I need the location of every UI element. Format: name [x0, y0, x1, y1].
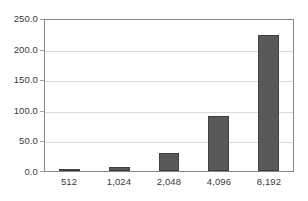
bar-512[interactable] — [59, 169, 80, 171]
plot-area — [44, 19, 294, 172]
y-axis-tick-label: 200.0 — [14, 45, 38, 55]
bar-2048[interactable] — [159, 153, 180, 171]
bar-slot — [243, 20, 293, 171]
y-axis-labels: 250.0 200.0 150.0 100.0 50.0 0.0 — [0, 0, 42, 201]
bar-slot — [144, 20, 194, 171]
x-axis-tick-label: 4,096 — [194, 176, 244, 187]
bar-1024[interactable] — [109, 167, 130, 171]
x-axis-labels: 512 1,024 2,048 4,096 8,192 — [44, 176, 294, 187]
y-axis-tick-label: 50.0 — [19, 136, 38, 146]
y-axis-tick-label: 150.0 — [14, 75, 38, 85]
bar-4096[interactable] — [208, 116, 229, 171]
x-axis-tick-label: 512 — [44, 176, 94, 187]
x-axis-tick-label: 1,024 — [94, 176, 144, 187]
bar-8192[interactable] — [258, 35, 279, 172]
x-axis-tick-label: 8,192 — [244, 176, 294, 187]
bar-slot — [45, 20, 95, 171]
y-axis-tick-label: 100.0 — [14, 106, 38, 116]
x-axis-tick-label: 2,048 — [144, 176, 194, 187]
y-axis-tick-label: 0.0 — [24, 167, 38, 177]
bar-slot — [95, 20, 145, 171]
bar-slot — [194, 20, 244, 171]
bar-series — [45, 20, 293, 171]
bar-chart: 250.0 200.0 150.0 100.0 50.0 0.0 — [0, 0, 308, 201]
y-axis-tick-label: 250.0 — [14, 14, 38, 24]
